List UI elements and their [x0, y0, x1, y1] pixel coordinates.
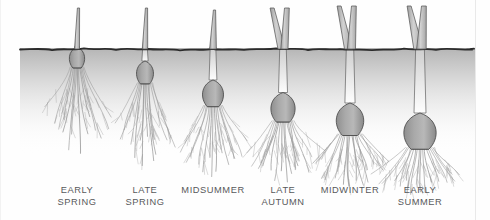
stage-label-line: SPRING [85, 197, 205, 209]
stage-foliage-late-spring [142, 8, 147, 49]
stage-label-line: AUTUMN [223, 197, 343, 209]
stage-label-early-summer: EARLYSUMMER [360, 185, 480, 208]
bulb-growth-diagram: EARLYSPRINGLATESPRINGMIDSUMMERLATEAUTUMN… [0, 0, 490, 220]
stage-foliage-midsummer [210, 10, 217, 49]
plants-above-ground-layer [75, 6, 427, 49]
left-edge-border [0, 0, 1, 220]
stage-foliage-late-autumn [270, 8, 289, 49]
stage-label-line: SUMMER [360, 197, 480, 209]
right-edge-border [475, 0, 476, 220]
stage-foliage-early-spring [75, 8, 80, 49]
stage-foliage-early-summer [407, 6, 426, 49]
stage-foliage-midwinter [337, 6, 356, 49]
stage-label-line: EARLY [360, 185, 480, 197]
